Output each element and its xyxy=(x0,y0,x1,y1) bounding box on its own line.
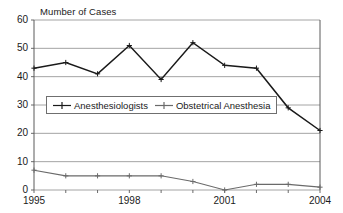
series-line xyxy=(34,43,320,131)
y-axis-tick-label: 60 xyxy=(2,15,28,25)
legend-label-anesthesiologists: Anesthesiologists xyxy=(74,100,148,111)
series-line xyxy=(34,170,320,190)
legend-item-anesthesiologists: Anesthesiologists xyxy=(53,100,148,111)
legend-item-obstetrical-anesthesia: Obstetrical Anesthesia xyxy=(155,100,271,111)
data-point-marker xyxy=(286,182,291,187)
chart-container: Mumber of Cases 0102030405060 1995199820… xyxy=(0,0,343,213)
x-axis-tick-label: 2001 xyxy=(205,196,245,206)
data-point-marker xyxy=(95,173,100,178)
y-axis-tick-label: 40 xyxy=(2,72,28,82)
legend-marker-icon xyxy=(155,101,173,110)
data-point-marker xyxy=(317,185,322,190)
y-axis-tick-label: 10 xyxy=(2,157,28,167)
x-axis-tick-label: 1995 xyxy=(14,196,54,206)
y-axis-tick-label: 0 xyxy=(2,185,28,195)
data-point-marker xyxy=(127,173,132,178)
y-axis-tick-label: 30 xyxy=(2,100,28,110)
data-point-marker xyxy=(63,60,68,65)
legend-marker-icon xyxy=(53,101,71,110)
legend-label-obstetrical-anesthesia: Obstetrical Anesthesia xyxy=(176,100,271,111)
data-point-marker xyxy=(31,66,36,71)
chart-legend: Anesthesiologists Obstetrical Anesthesia xyxy=(46,96,277,114)
x-axis-tick-label: 2004 xyxy=(300,196,340,206)
x-axis-tick-label: 1998 xyxy=(109,196,149,206)
y-axis-tick-label: 20 xyxy=(2,128,28,138)
series-layer xyxy=(31,40,322,193)
data-point-marker xyxy=(254,182,259,187)
data-point-marker xyxy=(31,168,36,173)
data-point-marker xyxy=(222,187,227,192)
data-point-marker xyxy=(159,173,164,178)
data-point-marker xyxy=(190,179,195,184)
y-axis-tick-label: 50 xyxy=(2,43,28,53)
data-point-marker xyxy=(63,173,68,178)
